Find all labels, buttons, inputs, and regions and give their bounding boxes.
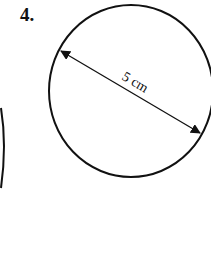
- circle-figure: 5 cm: [0, 0, 211, 274]
- adjacent-circle-arc: [1, 108, 4, 188]
- diameter-arrow: [61, 51, 200, 133]
- diameter-label: 5 cm: [120, 69, 151, 96]
